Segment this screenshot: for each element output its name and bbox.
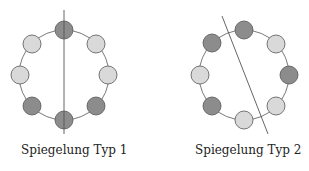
- bead-light: [87, 35, 105, 53]
- bead-light: [23, 35, 41, 53]
- bead-light: [191, 66, 209, 84]
- bead-light: [99, 66, 117, 84]
- bead-light: [267, 35, 285, 53]
- bead-dark: [280, 66, 298, 84]
- bead-dark: [235, 21, 253, 39]
- bead-light: [11, 66, 29, 84]
- bead-dark: [203, 34, 221, 52]
- bead-dark: [23, 97, 41, 115]
- reflection-type-2-diagram: [191, 16, 298, 134]
- bead-light: [267, 97, 285, 115]
- reflection-type-1-diagram: [11, 10, 117, 134]
- caption-reflection-type-1: Spiegelung Typ 1: [21, 143, 127, 157]
- caption-reflection-type-2: Spiegelung Typ 2: [195, 143, 301, 157]
- bead-light: [235, 111, 253, 129]
- bead-dark: [87, 97, 105, 115]
- bead-dark: [203, 97, 221, 115]
